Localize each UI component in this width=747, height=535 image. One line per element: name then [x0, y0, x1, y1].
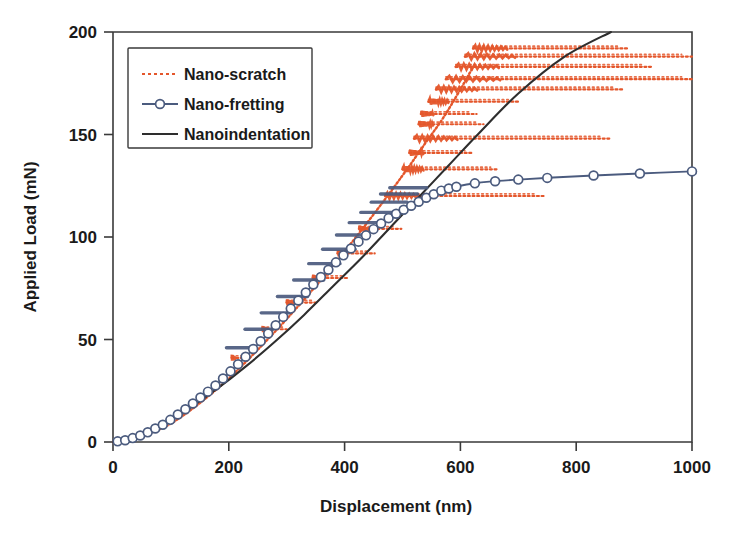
nano-fretting-marker [286, 304, 295, 313]
nano-fretting-marker [249, 345, 258, 354]
nano-scratch-sweep [421, 111, 477, 117]
y-tick-label: 200 [69, 23, 97, 42]
nano-fretting-marker [339, 251, 348, 260]
nano-fretting-marker [264, 329, 273, 338]
nano-fretting-marker [226, 367, 235, 376]
nano-scratch-sweep [446, 76, 692, 82]
nano-fretting-marker [589, 171, 598, 180]
x-axis-title: Displacement (nm) [320, 497, 472, 516]
x-tick-label: 0 [108, 458, 117, 477]
x-axis-ticks [113, 442, 692, 451]
nano-scratch-sweep [436, 86, 622, 92]
legend-label: Nanoindentation [184, 126, 310, 143]
x-tick-label: 1000 [673, 458, 711, 477]
y-tick-labels: 050100150200 [69, 23, 97, 452]
x-tick-label: 800 [562, 458, 590, 477]
nano-fretting-marker [491, 177, 500, 186]
nano-fretting-marker [234, 360, 243, 369]
nano-scratch-sweep [419, 121, 484, 127]
load-displacement-plot: 050100150200 02004006008001000 Displacem… [0, 0, 747, 535]
nano-fretting-marker [635, 169, 644, 178]
nano-fretting-marker [219, 374, 228, 383]
nano-fretting-marker [332, 258, 341, 267]
nano-fretting-marker [324, 265, 333, 274]
nano-fretting-marker [189, 399, 198, 408]
nano-scratch-sweep [465, 53, 692, 59]
legend: Nano-scratchNano-frettingNanoindentation [128, 48, 312, 148]
y-axis-title: Applied Load (mN) [21, 161, 40, 312]
nano-fretting-marker [470, 179, 479, 188]
nano-fretting-marker [271, 321, 280, 330]
y-axis-ticks [104, 32, 113, 442]
nano-fretting-marker [543, 173, 552, 182]
nano-scratch-sweep [429, 98, 519, 104]
nano-fretting-marker [514, 175, 523, 184]
x-tick-labels: 02004006008001000 [108, 458, 711, 477]
nano-fretting-marker [241, 352, 250, 361]
legend-label: Nano-scratch [184, 66, 286, 83]
nano-fretting-marker [354, 237, 363, 246]
nano-fretting-marker [347, 244, 356, 253]
nano-scratch-sweep [414, 135, 611, 141]
legend-label: Nano-fretting [184, 96, 284, 113]
nano-fretting-marker [256, 337, 265, 346]
x-tick-label: 600 [446, 458, 474, 477]
y-tick-label: 50 [78, 331, 97, 350]
nano-fretting-marker [294, 296, 303, 305]
nano-fretting-marker [204, 387, 213, 396]
chart-figure: 050100150200 02004006008001000 Displacem… [0, 0, 747, 535]
nano-fretting-marker [452, 182, 461, 191]
nano-fretting-marker [688, 167, 697, 176]
nano-fretting-marker [301, 288, 310, 297]
nano-fretting-marker [196, 393, 205, 402]
y-tick-label: 0 [88, 433, 97, 452]
legend-marker-open-circle [156, 100, 165, 109]
y-tick-label: 100 [69, 228, 97, 247]
nano-scratch-sweep [403, 166, 499, 172]
nano-fretting-marker [316, 273, 325, 282]
nano-fretting-marker [309, 280, 318, 289]
nano-fretting-marker [362, 231, 371, 240]
nano-fretting-marker [211, 381, 220, 390]
y-tick-label: 150 [69, 126, 97, 145]
nano-fretting-marker [279, 313, 288, 322]
x-tick-label: 400 [330, 458, 358, 477]
nano-scratch-sweep [473, 45, 628, 51]
x-tick-label: 200 [215, 458, 243, 477]
